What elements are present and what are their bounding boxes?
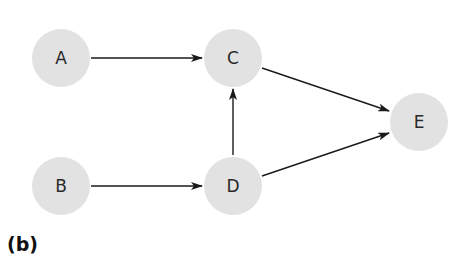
figure-caption: (b) [7, 233, 38, 255]
node-d-label: D [226, 176, 239, 196]
edge-d-to-e [262, 133, 389, 176]
node-e: E [390, 93, 448, 151]
node-b-label: B [55, 176, 67, 196]
node-e-label: E [414, 112, 425, 132]
node-a: A [32, 29, 90, 87]
node-a-label: A [55, 48, 67, 68]
edge-c-to-e [262, 68, 389, 111]
dependency-graph: A B C D E [0, 0, 461, 259]
node-c-label: C [227, 48, 239, 68]
node-d: D [204, 157, 262, 215]
node-c: C [204, 29, 262, 87]
node-b: B [32, 157, 90, 215]
